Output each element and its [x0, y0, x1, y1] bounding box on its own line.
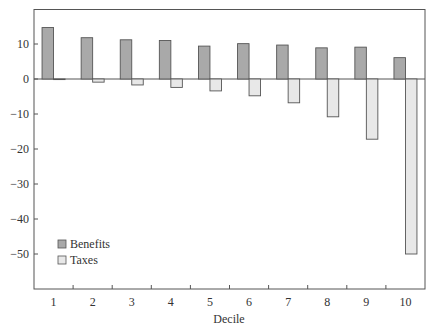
- x-tick-label: 9: [363, 295, 369, 309]
- x-tick-label: 7: [285, 295, 291, 309]
- bar-series: [42, 28, 417, 254]
- bar-taxes-decile-6: [249, 79, 260, 96]
- bar-benefits-decile-10: [394, 58, 406, 79]
- bar-taxes-decile-3: [132, 79, 144, 85]
- x-tick-label: 1: [51, 295, 57, 309]
- x-tick-label: 2: [90, 295, 96, 309]
- y-tick-label: −30: [10, 177, 29, 191]
- y-tick-label: −50: [10, 247, 29, 261]
- bar-benefits-decile-4: [159, 41, 171, 80]
- bar-benefits-decile-5: [198, 46, 210, 79]
- x-tick-label: 6: [246, 295, 252, 309]
- bar-taxes-decile-2: [93, 79, 105, 82]
- bar-taxes-decile-10: [405, 79, 417, 254]
- x-tick-label: 8: [324, 295, 330, 309]
- legend: Benefits Taxes: [58, 237, 110, 267]
- bar-benefits-decile-9: [355, 47, 367, 79]
- bar-benefits-decile-8: [316, 48, 328, 79]
- x-tick-label: 4: [168, 295, 174, 309]
- bar-taxes-decile-5: [210, 79, 222, 91]
- legend-label-taxes: Taxes: [70, 253, 98, 267]
- y-tick-label: 10: [17, 37, 29, 51]
- x-tick-label: 5: [207, 295, 213, 309]
- y-tick-label: 0: [23, 72, 29, 86]
- bar-benefits-decile-3: [120, 40, 132, 79]
- bar-taxes-decile-7: [288, 79, 300, 103]
- bar-chart: 100−10−20−30−40−50 12345678910 Benefits …: [0, 0, 435, 334]
- x-tick-label: 10: [399, 295, 411, 309]
- x-tick-label: 3: [129, 295, 135, 309]
- bar-benefits-decile-6: [238, 44, 250, 79]
- bar-benefits-decile-1: [42, 28, 54, 79]
- legend-swatch-taxes: [58, 256, 66, 264]
- bar-benefits-decile-7: [277, 45, 289, 79]
- legend-label-benefits: Benefits: [70, 237, 110, 251]
- bar-taxes-decile-9: [366, 79, 378, 139]
- bar-taxes-decile-4: [171, 79, 183, 87]
- y-tick-label: −20: [10, 142, 29, 156]
- bar-benefits-decile-2: [81, 38, 93, 79]
- legend-swatch-benefits: [58, 240, 66, 248]
- y-tick-label: −40: [10, 212, 29, 226]
- bar-taxes-decile-8: [327, 79, 339, 117]
- y-tick-label: −10: [10, 107, 29, 121]
- x-axis-title: Decile: [213, 312, 244, 326]
- bar-taxes-decile-1: [54, 79, 66, 80]
